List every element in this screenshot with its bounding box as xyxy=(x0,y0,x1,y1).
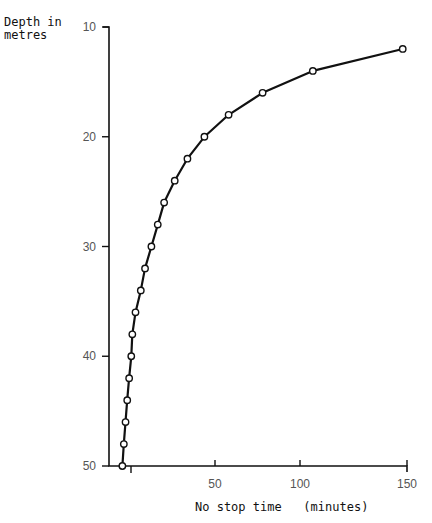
data-point-marker xyxy=(124,397,130,403)
data-point-marker xyxy=(201,134,207,140)
data-point-marker xyxy=(132,309,138,315)
x-tick-label: 100 xyxy=(290,477,310,491)
y-tick-label: 20 xyxy=(83,130,97,144)
data-point-marker xyxy=(122,419,128,425)
y-tick-label: 50 xyxy=(83,459,97,473)
data-point-marker xyxy=(128,353,134,359)
data-point-marker xyxy=(121,441,127,447)
data-point-marker xyxy=(148,243,154,249)
data-point-marker xyxy=(155,221,161,227)
y-tick-label: 40 xyxy=(83,349,97,363)
data-point-marker xyxy=(310,68,316,74)
ticks: 102030405050100150 xyxy=(83,20,418,491)
data-point-marker xyxy=(126,375,132,381)
data-point-marker xyxy=(119,463,125,469)
axis-lines xyxy=(103,27,407,472)
data-point-marker xyxy=(138,287,144,293)
x-tick-label: 150 xyxy=(397,477,417,491)
y-tick-label: 30 xyxy=(83,240,97,254)
depth-vs-no-stop-time-chart: 102030405050100150 xyxy=(0,0,432,523)
data-point-marker xyxy=(172,177,178,183)
data-point-marker xyxy=(184,156,190,162)
data-line xyxy=(122,49,402,466)
data-point-marker xyxy=(129,331,135,337)
data-point-marker xyxy=(400,46,406,52)
y-tick-label: 10 xyxy=(83,20,97,34)
data-point-marker xyxy=(259,90,265,96)
x-tick-label: 50 xyxy=(208,477,222,491)
data-point-marker xyxy=(225,112,231,118)
data-point-marker xyxy=(142,265,148,271)
data-series xyxy=(119,46,406,469)
axes xyxy=(103,27,407,472)
data-point-marker xyxy=(161,199,167,205)
